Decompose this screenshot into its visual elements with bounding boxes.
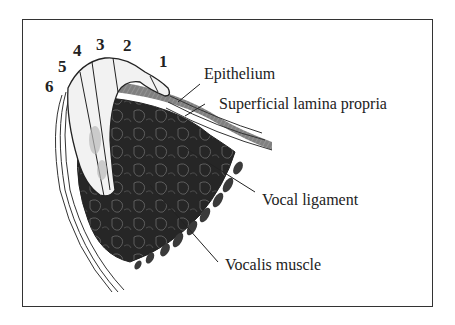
label-epithelium: Epithelium (204, 66, 275, 82)
label-vocal-ligament: Vocal ligament (262, 192, 358, 208)
label-vocalis-muscle: Vocalis muscle (225, 257, 321, 273)
label-superficial-lamina-propria: Superficial lamina propria (219, 96, 387, 112)
layer-number-3: 3 (96, 36, 105, 53)
layer-number-6: 6 (45, 78, 54, 95)
layer-number-4: 4 (73, 42, 82, 59)
layer-number-1: 1 (159, 53, 168, 70)
layer-number-2: 2 (123, 37, 132, 54)
vocal-fold-illustration (0, 0, 455, 325)
layer-number-5: 5 (58, 58, 67, 75)
